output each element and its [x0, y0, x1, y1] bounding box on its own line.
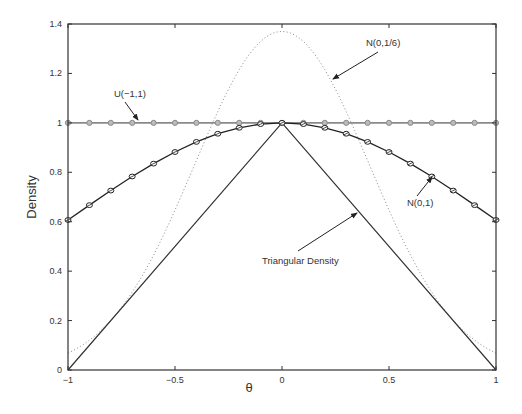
annotation-triangular-arrow-icon — [298, 213, 357, 251]
data-point-marker — [451, 120, 456, 125]
y-tick-label: 1.4 — [49, 19, 62, 29]
annotation-uniform-label: U(−1,1) — [114, 88, 146, 99]
series-layer — [65, 31, 499, 370]
x-tick-label: 1 — [493, 375, 498, 385]
annotation-normal-0-1-arrow-icon — [417, 177, 432, 196]
data-point-marker — [151, 120, 156, 125]
y-tick-label: 1.2 — [49, 68, 62, 78]
data-point-marker — [322, 120, 327, 125]
annotation-uniform: U(−1,1) — [114, 88, 146, 120]
data-point-marker — [344, 120, 349, 125]
y-tick-label: 0 — [57, 365, 62, 375]
data-point-marker — [108, 120, 113, 125]
data-point-marker — [408, 120, 413, 125]
annotation-normal-0-1-label: N(0,1) — [407, 197, 433, 208]
x-tick-label: −1 — [63, 375, 73, 385]
y-tick-label: 0.8 — [49, 167, 62, 177]
data-point-marker — [386, 120, 391, 125]
annotation-triangular: Triangular Density — [262, 213, 357, 266]
data-point-marker — [237, 120, 242, 125]
annotation-normal-1-6-arrow-icon — [333, 52, 378, 79]
annotation-normal-1-6-label: N(0,1/6) — [366, 37, 400, 48]
data-point-marker — [365, 120, 370, 125]
annotation-normal-0-1: N(0,1) — [407, 177, 433, 208]
series-triangular-line — [68, 123, 496, 370]
data-point-marker — [429, 120, 434, 125]
series-normal-0-1-6 — [68, 31, 496, 353]
data-point-marker — [172, 120, 177, 125]
y-tick-label: 0.6 — [49, 217, 62, 227]
series-normal-0-1-6-line — [68, 31, 496, 353]
y-tick-label: 0.4 — [49, 266, 62, 276]
annotation-uniform-arrow-icon — [125, 102, 138, 120]
data-point-marker — [87, 120, 92, 125]
y-axis-title: Density — [24, 175, 39, 219]
x-tick-label: −0.5 — [166, 375, 184, 385]
data-point-marker — [215, 120, 220, 125]
data-point-marker — [194, 120, 199, 125]
x-axis-title: θ — [245, 380, 252, 395]
y-tick-label: 1 — [57, 118, 62, 128]
annotation-normal-1-6: N(0,1/6) — [333, 37, 400, 79]
y-tick-label: 0.2 — [49, 316, 62, 326]
x-tick-label: 0 — [279, 375, 284, 385]
density-chart: −1−0.500.5100.20.40.60.811.21.4 θ Densit… — [0, 0, 522, 414]
series-normal-0-1 — [65, 120, 499, 222]
data-point-marker — [472, 120, 477, 125]
annotation-triangular-label: Triangular Density — [262, 255, 339, 266]
data-point-marker — [130, 120, 135, 125]
x-tick-label: 0.5 — [383, 375, 396, 385]
series-triangular — [68, 123, 496, 370]
